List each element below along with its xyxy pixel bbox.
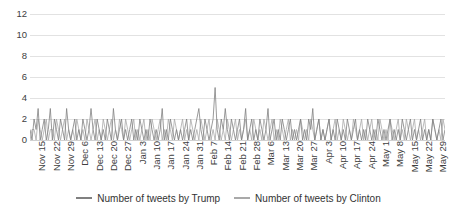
x-tick-label: Jan 17 <box>166 141 176 170</box>
x-tick-label: Feb 28 <box>252 141 262 171</box>
chart-legend: Number of tweets by TrumpNumber of tweet… <box>0 190 457 206</box>
x-tick-label: Feb 7 <box>209 141 219 165</box>
x-tick-label: Jan 31 <box>195 141 205 170</box>
x-tick-label: May 8 <box>395 141 405 167</box>
plot-area <box>30 14 445 140</box>
legend-line-icon <box>234 197 250 199</box>
x-tick-label: May 1 <box>381 141 391 167</box>
y-tick-label: 0 <box>1 135 27 145</box>
x-tick-label: Mar 6 <box>266 141 276 165</box>
legend-line-icon <box>76 197 92 199</box>
x-tick-label: Mar 27 <box>309 141 319 171</box>
x-tick-label: Nov 15 <box>37 141 47 171</box>
x-tick-label: Apr 10 <box>338 141 348 169</box>
legend-item[interactable]: Number of tweets by Clinton <box>234 193 381 204</box>
series-paths <box>30 14 445 140</box>
x-tick-label: Feb 21 <box>238 141 248 171</box>
x-axis: Nov 15Nov 22Nov 29Dec 6Dec 13Dec 20Dec 2… <box>30 141 445 185</box>
x-tick-label: Nov 22 <box>52 141 62 171</box>
x-tick-label: Apr 24 <box>367 141 377 169</box>
x-tick-label: Nov 29 <box>66 141 76 171</box>
x-tick-label: Jan 3 <box>138 141 148 164</box>
x-tick-label: Feb 14 <box>223 141 233 171</box>
x-tick-label: Mar 20 <box>295 141 305 171</box>
legend-label: Number of tweets by Trump <box>97 193 220 204</box>
x-tick-label: Jan 24 <box>181 141 191 170</box>
x-tick-label: Mar 13 <box>281 141 291 171</box>
legend-item[interactable]: Number of tweets by Trump <box>76 193 220 204</box>
y-tick-label: 6 <box>1 72 27 82</box>
x-tick-label: Dec 6 <box>80 141 90 166</box>
x-tick-label: Apr 3 <box>324 141 334 164</box>
tweets-line-chart: 024681012 Nov 15Nov 22Nov 29Dec 6Dec 13D… <box>0 0 457 214</box>
x-tick-label: Apr 17 <box>352 141 362 169</box>
legend-label: Number of tweets by Clinton <box>255 193 381 204</box>
x-tick-label: May 22 <box>424 141 434 172</box>
x-tick-label: Jan 10 <box>152 141 162 170</box>
x-tick-label: May 15 <box>410 141 420 172</box>
x-tick-label: Dec 27 <box>123 141 133 171</box>
x-tick-label: Dec 20 <box>109 141 119 171</box>
y-axis: 024681012 <box>0 14 27 140</box>
y-tick-label: 10 <box>1 30 27 40</box>
y-tick-label: 12 <box>1 9 27 19</box>
x-tick-label: May 29 <box>438 141 448 172</box>
y-tick-label: 4 <box>1 93 27 103</box>
y-tick-label: 2 <box>1 114 27 124</box>
x-tick-label: Dec 13 <box>95 141 105 171</box>
y-tick-label: 8 <box>1 51 27 61</box>
